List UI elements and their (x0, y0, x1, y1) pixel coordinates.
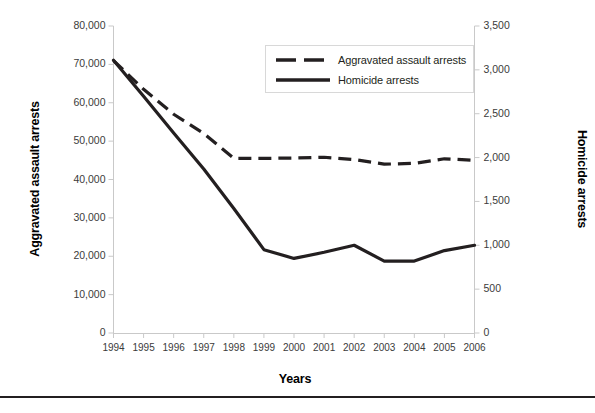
left-axis-tick-label: 80,000 (46, 19, 106, 31)
right-axis-tick-label: 3,500 (484, 19, 544, 31)
right-axis-tick-label: 1,500 (484, 194, 544, 206)
footer-divider (0, 396, 595, 398)
left-axis-tick-label: 30,000 (46, 211, 106, 223)
chart-legend: Aggravated assault arrests Homicide arre… (265, 45, 474, 93)
legend-dashed-line-icon (276, 52, 330, 68)
legend-item-label: Aggravated assault arrests (338, 54, 466, 66)
footer-caption (2, 402, 462, 413)
chart-figure: 010,00020,00030,00040,00050,00060,00070,… (0, 0, 595, 413)
legend-item-label: Homicide arrests (338, 74, 419, 86)
right-axis-title: Homicide arrests (575, 49, 589, 309)
x-axis-tick-label: 2006 (453, 342, 497, 353)
legend-item-homicide-arrests: Homicide arrests (276, 70, 419, 90)
left-axis-tick-label: 50,000 (46, 134, 106, 146)
legend-solid-line-icon (276, 72, 330, 88)
legend-item-aggravated-assault-arrests: Aggravated assault arrests (276, 50, 466, 70)
left-axis-title: Aggravated assault arrests (28, 49, 42, 309)
right-axis-tick-label: 2,000 (484, 151, 544, 163)
left-axis-ticks (109, 26, 114, 333)
right-axis-tick-label: 1,000 (484, 238, 544, 250)
left-axis-tick-label: 20,000 (46, 249, 106, 261)
left-axis-tick-label: 0 (46, 326, 106, 338)
x-axis-title: Years (100, 372, 490, 386)
left-axis-tick-label: 70,000 (46, 57, 106, 69)
right-axis-tick-label: 0 (484, 326, 544, 338)
left-axis-tick-label: 40,000 (46, 173, 106, 185)
right-axis-tick-label: 2,500 (484, 107, 544, 119)
right-axis-ticks (475, 26, 480, 333)
right-axis-tick-label: 500 (484, 282, 544, 294)
right-axis-tick-label: 3,000 (484, 63, 544, 75)
left-axis-tick-label: 10,000 (46, 288, 106, 300)
left-axis-tick-label: 60,000 (46, 96, 106, 108)
